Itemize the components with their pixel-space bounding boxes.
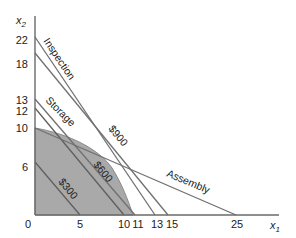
y-tick-6: 6 <box>22 161 28 173</box>
x-tick-15: 15 <box>166 218 178 230</box>
y-tick-18: 18 <box>16 58 28 70</box>
linear-programming-chart: x2 x1 22 18 13 12 10 6 0 5 10 11 13 15 2… <box>0 0 296 238</box>
y-tick-10: 10 <box>16 122 28 134</box>
inspection-label: Inspection <box>41 35 78 82</box>
x-tick-25: 25 <box>231 218 243 230</box>
y-tick-22: 22 <box>16 34 28 46</box>
x-tick-5: 5 <box>77 218 83 230</box>
x-tick-11: 11 <box>132 218 143 230</box>
x-tick-10: 10 <box>118 218 130 230</box>
x-axis-label: x1 <box>269 219 280 234</box>
x-tick-13: 13 <box>151 218 163 230</box>
y-axis-label: x2 <box>15 14 27 29</box>
assembly-label: Assembly <box>165 167 212 196</box>
x-tick-0: 0 <box>25 218 31 230</box>
y-tick-12: 12 <box>16 105 28 117</box>
